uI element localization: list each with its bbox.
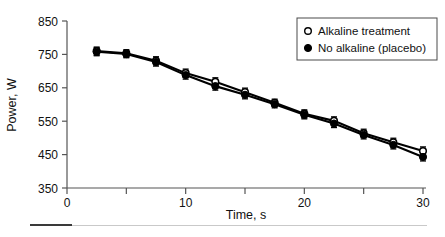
data-point-filled (390, 141, 397, 148)
y-tick-label: 450 (38, 148, 58, 162)
legend-filled-circle-icon (304, 44, 311, 51)
legend-open-circle-icon (305, 28, 312, 35)
x-tick-label: 0 (64, 196, 71, 210)
y-tick-label: 650 (38, 81, 58, 95)
y-tick-label: 750 (38, 48, 58, 62)
data-point-filled (182, 72, 189, 79)
data-point-filled (360, 131, 367, 138)
footer-rule-light (72, 225, 427, 226)
y-tick-label: 550 (38, 115, 58, 129)
x-tick-label: 30 (416, 196, 430, 210)
data-series-layer (93, 47, 427, 161)
y-tick-label: 350 (38, 182, 58, 196)
y-axis-ticks (62, 21, 67, 188)
footer-rule-dark (30, 224, 72, 226)
data-point-filled (93, 48, 100, 55)
data-point-filled (419, 153, 426, 160)
data-point-filled (212, 83, 219, 90)
y-tick-label: 850 (38, 15, 58, 29)
series-line (97, 51, 423, 151)
x-axis-title: Time, s (226, 208, 267, 222)
data-point-filled (330, 120, 337, 127)
data-point-filled (301, 111, 308, 118)
x-tick-label: 20 (298, 196, 312, 210)
legend-label-placebo: No alkaline (placebo) (318, 42, 426, 54)
data-point-filled (271, 101, 278, 108)
y-axis-tick-labels: 350450550650750850 (38, 15, 58, 196)
series-line (97, 52, 423, 157)
figure-container: 350450550650750850 0102030 Time, s Power… (0, 0, 445, 237)
y-axis-title: Power, W (5, 78, 19, 132)
data-point-filled (241, 91, 248, 98)
power-vs-time-chart: 350450550650750850 0102030 Time, s Power… (0, 0, 445, 237)
x-tick-label: 10 (179, 196, 193, 210)
legend-label-alkaline: Alkaline treatment (318, 25, 411, 37)
data-point-filled (152, 58, 159, 65)
x-axis-ticks (67, 188, 423, 194)
data-point-filled (123, 50, 130, 57)
legend: Alkaline treatment No alkaline (placebo) (297, 18, 437, 60)
